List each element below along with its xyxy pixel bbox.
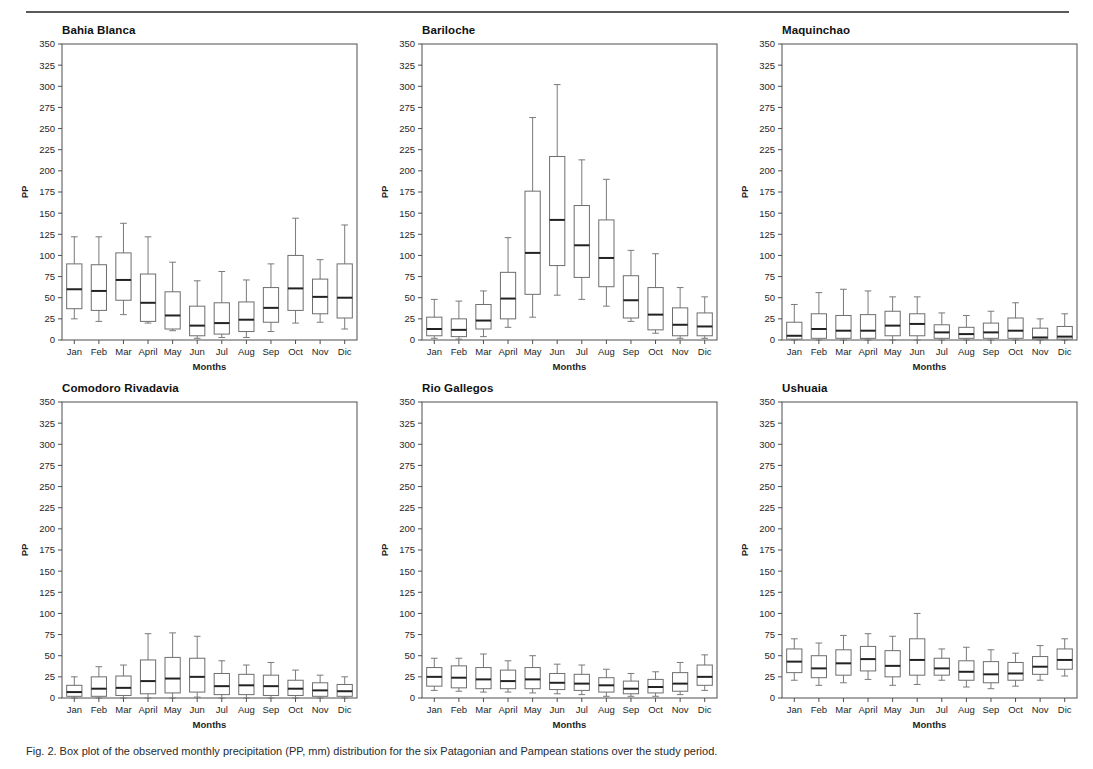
box-iqr <box>811 314 826 339</box>
boxplot-box <box>525 118 540 318</box>
box-iqr <box>67 264 82 309</box>
y-axis-title: PP <box>19 185 30 198</box>
y-tick-label: 200 <box>39 523 55 534</box>
box-iqr <box>427 317 442 336</box>
y-tick-label: 125 <box>39 587 55 598</box>
y-tick-label: 100 <box>759 250 775 261</box>
x-tick-label: Nov <box>672 704 689 715</box>
box-iqr <box>697 313 712 336</box>
y-tick-label: 200 <box>399 523 415 534</box>
boxplot-box <box>648 254 663 333</box>
chart-panel: Bahia Blanca0255075100125150175200225250… <box>16 22 365 380</box>
box-iqr <box>140 274 155 321</box>
box-iqr <box>116 676 131 695</box>
x-tick-label: Jun <box>910 704 925 715</box>
box-iqr <box>574 674 589 690</box>
y-tick-label: 225 <box>399 144 415 155</box>
y-tick-label: 275 <box>759 460 775 471</box>
boxplot-box <box>1057 639 1072 676</box>
y-tick-label: 75 <box>44 629 55 640</box>
boxplot-box <box>91 237 106 322</box>
y-tick-label: 200 <box>759 523 775 534</box>
box-iqr <box>836 315 851 338</box>
figure-root: Bahia Blanca0255075100125150175200225250… <box>0 0 1093 769</box>
boxplot-box <box>263 264 278 332</box>
box-iqr <box>623 681 638 694</box>
boxplot-box <box>1057 314 1072 340</box>
boxplot-box <box>451 301 466 339</box>
y-tick-label: 250 <box>759 123 775 134</box>
box-iqr <box>910 639 925 675</box>
box-iqr <box>476 668 491 689</box>
boxplot-box <box>140 237 155 323</box>
x-tick-label: Sep <box>983 704 1000 715</box>
y-tick-label: 150 <box>39 566 55 577</box>
box-iqr <box>67 685 82 696</box>
box-iqr <box>550 673 565 689</box>
boxplot-box <box>500 238 515 328</box>
box-iqr <box>525 191 540 294</box>
x-tick-label: May <box>164 346 182 357</box>
boxplot-box <box>574 665 589 695</box>
boxplot-box <box>337 225 352 329</box>
x-tick-label: Jul <box>576 346 588 357</box>
boxplot-box <box>140 634 155 698</box>
x-tick-label: Mar <box>115 704 131 715</box>
x-tick-label: Jan <box>67 346 82 357</box>
x-tick-label: Dic <box>1058 346 1072 357</box>
box-iqr <box>934 658 949 675</box>
boxplot-box <box>288 218 303 323</box>
y-tick-label: 325 <box>39 60 55 71</box>
y-tick-label: 75 <box>764 629 775 640</box>
boxplot-svg: 0255075100125150175200225250275300325350… <box>376 394 725 738</box>
x-tick-label: Mar <box>475 346 491 357</box>
boxplot-box <box>67 237 82 319</box>
y-tick-label: 300 <box>759 81 775 92</box>
box-iqr <box>811 656 826 678</box>
x-tick-label: Feb <box>811 704 827 715</box>
boxplot-box <box>313 675 328 698</box>
y-tick-label: 350 <box>39 396 55 407</box>
x-tick-label: April <box>499 346 518 357</box>
y-tick-label: 350 <box>759 396 775 407</box>
header-rule <box>26 11 1069 13</box>
box-iqr <box>860 315 875 339</box>
box-iqr <box>190 658 205 692</box>
boxplot-box <box>787 639 802 680</box>
y-tick-label: 175 <box>39 544 55 555</box>
figure-caption: Fig. 2. Box plot of the observed monthly… <box>26 744 1071 769</box>
x-axis-title: Months <box>913 361 947 372</box>
x-tick-label: May <box>524 704 542 715</box>
y-tick-label: 350 <box>759 38 775 49</box>
panel-title: Bariloche <box>422 24 475 36</box>
box-iqr <box>525 668 540 689</box>
y-tick-label: 175 <box>399 544 415 555</box>
y-tick-label: 0 <box>770 692 775 703</box>
y-tick-label: 225 <box>399 502 415 513</box>
box-iqr <box>165 292 180 329</box>
box-iqr <box>599 220 614 287</box>
y-tick-label: 300 <box>759 439 775 450</box>
box-iqr <box>91 677 106 696</box>
x-tick-label: Oct <box>288 346 303 357</box>
boxplot-box <box>959 647 974 687</box>
y-tick-label: 175 <box>759 186 775 197</box>
y-tick-label: 0 <box>410 334 415 345</box>
boxplot-box <box>313 260 328 323</box>
x-tick-label: Jul <box>216 346 228 357</box>
box-iqr <box>190 306 205 336</box>
panel-title: Bahia Blanca <box>62 24 135 36</box>
y-tick-label: 325 <box>39 418 55 429</box>
y-tick-label: 75 <box>764 271 775 282</box>
x-tick-label: Oct <box>288 704 303 715</box>
x-tick-label: May <box>884 704 902 715</box>
boxplot-box <box>574 160 589 300</box>
y-tick-label: 50 <box>44 292 55 303</box>
x-tick-label: Nov <box>1032 346 1049 357</box>
x-tick-label: Jan <box>427 346 442 357</box>
x-tick-label: Jan <box>67 704 82 715</box>
boxplot-box <box>214 271 229 337</box>
x-tick-label: May <box>884 346 902 357</box>
y-tick-label: 150 <box>399 566 415 577</box>
x-tick-label: Jun <box>550 704 565 715</box>
